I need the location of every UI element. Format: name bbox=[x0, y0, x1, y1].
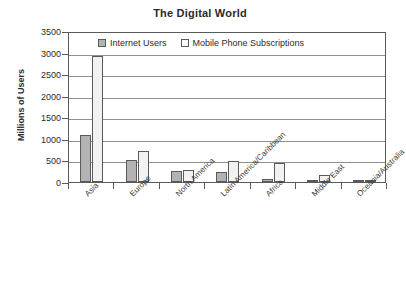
x-axis-tick-mark bbox=[386, 183, 387, 189]
y-axis-tick-label: 3000 bbox=[0, 49, 68, 59]
y-axis-tick-label: 2000 bbox=[0, 92, 68, 102]
bar-internet-users[interactable] bbox=[307, 180, 318, 182]
x-axis-tick-mark bbox=[204, 183, 205, 189]
x-axis-tick-mark bbox=[295, 183, 296, 189]
y-axis-tick-label: 1500 bbox=[0, 113, 68, 123]
bar-internet-users[interactable] bbox=[80, 135, 91, 182]
plot-area bbox=[68, 32, 386, 183]
x-axis-tick-mark bbox=[68, 183, 69, 189]
legend-item-mobile-subscriptions[interactable]: Mobile Phone Subscriptions bbox=[181, 38, 305, 48]
bar-internet-users[interactable] bbox=[353, 180, 364, 182]
bar-group bbox=[114, 33, 159, 182]
bar-internet-users[interactable] bbox=[126, 160, 137, 182]
y-axis-tick-label: 3500 bbox=[0, 27, 68, 37]
chart-title: The Digital World bbox=[0, 7, 400, 19]
x-axis-tick-label: Asia bbox=[83, 181, 100, 198]
bar-internet-users[interactable] bbox=[262, 179, 273, 182]
bar-group bbox=[296, 33, 341, 182]
y-axis-tick-label: 0 bbox=[0, 178, 68, 188]
y-axis-tick-label: 2500 bbox=[0, 70, 68, 80]
legend-item-internet-users[interactable]: Internet Users bbox=[98, 38, 167, 48]
bar-group bbox=[160, 33, 205, 182]
y-axis-tick-label: 1000 bbox=[0, 135, 68, 145]
y-axis-tick-label: 500 bbox=[0, 156, 68, 166]
chart-legend: Internet Users Mobile Phone Subscription… bbox=[98, 38, 304, 48]
legend-swatch-icon bbox=[98, 39, 106, 47]
bar-group bbox=[69, 33, 114, 182]
y-axis-title: Millions of Users bbox=[16, 45, 26, 165]
bar-group bbox=[342, 33, 387, 182]
bar-mobile-subscriptions[interactable] bbox=[92, 56, 103, 182]
bar-internet-users[interactable] bbox=[216, 172, 227, 182]
x-axis-tick-mark bbox=[341, 183, 342, 189]
legend-label-mobile-subscriptions: Mobile Phone Subscriptions bbox=[193, 38, 305, 48]
legend-label-internet-users: Internet Users bbox=[110, 38, 167, 48]
x-axis-tick-mark bbox=[250, 183, 251, 189]
x-axis-tick-mark bbox=[113, 183, 114, 189]
x-axis-tick-mark bbox=[159, 183, 160, 189]
legend-swatch-icon bbox=[181, 39, 189, 47]
bar-internet-users[interactable] bbox=[171, 171, 182, 182]
